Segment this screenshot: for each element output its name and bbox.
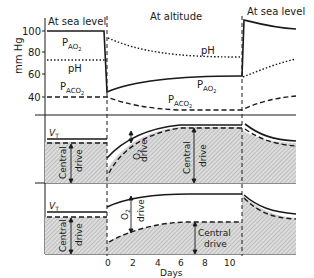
x-tick-2: 2 [130, 258, 136, 268]
y-tick-40: 40 [28, 92, 41, 103]
x-tick-8: 8 [202, 258, 208, 268]
y-axis-label: mm Hg [13, 37, 24, 74]
y-tick-100: 100 [22, 26, 41, 37]
central-label-bottom-right: Central [198, 228, 231, 238]
drive-label-middle-left: drive [74, 149, 84, 172]
ph-curve [47, 38, 296, 77]
drive-label-middle-right: drive [198, 144, 208, 167]
ventilatory-acclimatization-diagram: At sea level At altitude At sea level 10… [0, 0, 314, 278]
y-tick-80: 80 [28, 47, 41, 58]
x-tick-4: 4 [155, 258, 161, 268]
paco2-label-left: PACO2 [60, 81, 84, 96]
pao2-curve [47, 20, 296, 92]
o2-label-bottom: O2 [120, 209, 131, 220]
drive-label-bottom-right: drive [204, 239, 227, 249]
pao2-label-altitude: PAO2 [197, 79, 216, 94]
central-label-bottom-left: Central [58, 219, 68, 252]
x-tick-10: 10 [224, 258, 236, 268]
x-tick-0: 0 [105, 258, 111, 268]
central-label-middle-right: Central [182, 141, 192, 174]
drive-label-bottom-left: drive [74, 223, 84, 246]
o2-drive-label-bottom: drive [136, 199, 146, 222]
y-tick-60: 60 [28, 69, 41, 80]
paco2-label-altitude: PACO2 [168, 94, 192, 109]
vt-label-bottom: VT [49, 201, 59, 212]
x-axis-label: Days [160, 268, 183, 278]
phase-label-sea-level-right: At sea level [247, 6, 305, 17]
phase-label-sea-level-left: At sea level [48, 16, 106, 27]
central-label-middle-left: Central [58, 146, 68, 179]
x-tick-6: 6 [178, 258, 184, 268]
vt-label-middle: VT [49, 128, 59, 139]
o2-drive-label-middle: drive [139, 139, 149, 162]
ph-label-left: pH [68, 63, 82, 74]
ph-label-altitude: pH [201, 45, 215, 56]
pao2-label-left: PAO2 [62, 37, 81, 52]
phase-label-altitude: At altitude [150, 11, 202, 22]
